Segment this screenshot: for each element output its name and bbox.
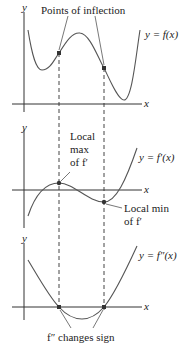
max-pointer-line [61,172,70,181]
local-min-label-1: Local min [124,202,169,214]
pointer-line-left [59,16,68,50]
top-x-label: x [143,97,149,109]
middle-x-label: x [143,183,149,195]
f-double-prime-curve-label: y = f″(x) [138,249,177,262]
top-panel: y x Points of inflection y = f(x) [12,1,178,112]
local-max-point [57,181,61,185]
bottom-y-label: y [21,232,27,244]
points-of-inflection-label: Points of inflection [41,4,126,16]
sign-change-point-right [102,305,106,309]
local-min-label-2: of f′ [124,215,142,227]
local-max-label-3: of f′ [70,156,88,168]
inflection-point-left [57,51,61,55]
f-curve-label: y = f(x) [144,28,178,41]
inflection-diagram: y x Points of inflection y = f(x) y x Lo… [0,0,189,346]
min-pointer-line [106,204,122,208]
pointer-line-right [95,16,104,65]
bottom-x-label: x [143,300,149,312]
bottom-panel: y x y = f″(x) f″ changes sign [12,232,177,343]
changes-sign-label: f″ changes sign [47,331,115,343]
local-min-point [102,200,106,204]
top-y-label: y [21,1,27,13]
f-double-prime-curve [28,246,137,319]
local-max-label-1: Local [70,130,95,142]
f-prime-curve-label: y = f′(x) [138,151,175,164]
f-curve [28,30,140,100]
middle-y-label: y [21,121,27,133]
sign-change-point-left [57,305,61,309]
inflection-point-right [102,66,106,70]
middle-panel: y x Local max of f′ y = f′(x) Local min … [12,121,175,228]
local-max-label-2: max [70,143,89,155]
